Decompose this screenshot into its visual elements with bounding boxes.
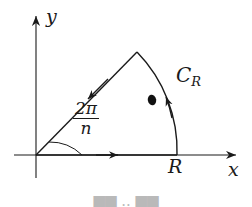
angle-denominator: n <box>73 119 99 137</box>
arc-label-base: C <box>176 63 191 87</box>
angle-arc <box>49 142 82 155</box>
arc-label-CR: CR <box>176 65 201 88</box>
direction-arrow-ray <box>88 79 108 99</box>
contour-arc-CR <box>137 52 177 155</box>
figure-caption-cropped: ██ ·· ██ <box>0 196 252 207</box>
x-axis-label: x <box>228 160 239 179</box>
pole-marker-dot <box>147 94 157 106</box>
y-axis-label: y <box>46 7 57 26</box>
angle-label-fraction: 2π n <box>73 100 99 137</box>
contour-diagram-canvas <box>0 0 252 207</box>
arc-label-subscript: R <box>191 74 201 89</box>
radius-label: R <box>168 157 182 176</box>
contour-figure: y x R CR 2π n ██ ·· ██ <box>0 0 252 207</box>
angle-numerator: 2π <box>73 100 99 119</box>
